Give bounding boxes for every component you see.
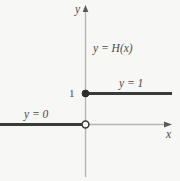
- coordinate-plot-svg: [0, 0, 180, 181]
- filled-circle-endpoint-one: [82, 90, 89, 97]
- x-axis-label: x: [166, 129, 171, 141]
- plot-background: [0, 0, 180, 181]
- graph-figure: y x 1 y = H(x) y = 1 y = 0: [0, 0, 180, 181]
- function-label: y = H(x): [93, 43, 133, 55]
- right-branch-label: y = 1: [119, 78, 143, 90]
- open-circle-endpoint-origin: [82, 121, 89, 128]
- left-branch-label: y = 0: [24, 109, 48, 121]
- y-tick-label-one: 1: [69, 88, 75, 99]
- y-axis-label: y: [75, 4, 80, 16]
